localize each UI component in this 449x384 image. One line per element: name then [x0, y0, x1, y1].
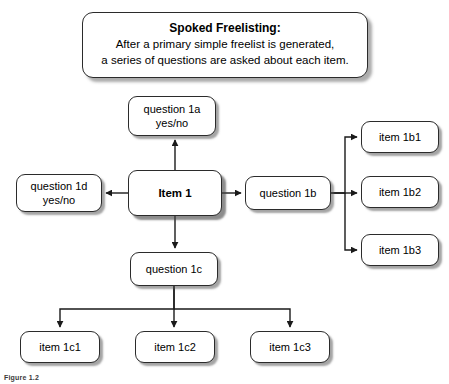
node-question-1c[interactable]: question 1c — [130, 252, 218, 286]
node-label: question 1d yes/no — [31, 179, 88, 207]
diagram-canvas: Spoked Freelisting: After a primary simp… — [0, 0, 449, 384]
node-question-1b[interactable]: question 1b — [245, 176, 331, 210]
node-item-1[interactable]: Item 1 — [128, 170, 222, 216]
header-note: Spoked Freelisting: After a primary simp… — [82, 12, 368, 78]
header-note-title: Spoked Freelisting: — [169, 21, 280, 35]
node-label: item 1b1 — [379, 130, 421, 144]
node-label: item 1b3 — [379, 243, 421, 257]
edge-question1b-to-item1b3 — [345, 193, 357, 250]
header-note-body: After a primary simple freelist is gener… — [101, 37, 348, 69]
node-label: question 1b — [260, 186, 317, 200]
node-label: item 1c3 — [269, 340, 311, 354]
node-label: question 1c — [146, 262, 202, 276]
node-label: Item 1 — [158, 186, 191, 201]
node-item-1c3[interactable]: item 1c3 — [250, 331, 330, 363]
node-item-1c2[interactable]: item 1c2 — [135, 331, 215, 363]
figure-caption: Figure 1.2 — [4, 374, 39, 381]
node-item-1c1[interactable]: item 1c1 — [20, 331, 100, 363]
node-label: item 1b2 — [379, 185, 421, 199]
node-item-1b2[interactable]: item 1b2 — [361, 176, 439, 208]
node-item-1b1[interactable]: item 1b1 — [361, 121, 439, 153]
edge-question1c-to-item1c3 — [174, 309, 290, 327]
edge-question1c-to-item1c1 — [60, 286, 174, 327]
node-label: item 1c2 — [154, 340, 196, 354]
node-label: question 1a yes/no — [144, 102, 201, 130]
node-item-1b3[interactable]: item 1b3 — [361, 234, 439, 266]
edge-question1b-to-item1b1 — [331, 137, 357, 193]
node-label: item 1c1 — [39, 340, 81, 354]
node-question-1a[interactable]: question 1a yes/no — [128, 96, 216, 136]
node-question-1d[interactable]: question 1d yes/no — [16, 174, 102, 212]
